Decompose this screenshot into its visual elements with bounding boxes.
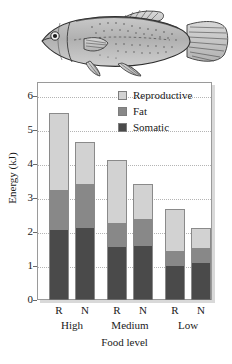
- chart-legend: ReproductiveFatSomatic: [118, 88, 192, 136]
- y-axis-tick: [33, 300, 37, 301]
- legend-swatch-somatic: [118, 123, 127, 132]
- bar-segment-fat: [165, 251, 185, 266]
- x-group-label-high: High: [42, 319, 102, 331]
- bar-segment-reproductive: [133, 184, 153, 219]
- bar-r-low[interactable]: [165, 209, 185, 300]
- bar-segment-reproductive: [75, 142, 95, 185]
- bar-n-medium[interactable]: [133, 184, 153, 300]
- energy-allocation-chart: 0123456 Energy (kJ) ReproductiveFatSomat…: [0, 80, 232, 364]
- legend-label: Fat: [133, 106, 147, 117]
- legend-label: Reproductive: [133, 90, 192, 101]
- figure-root: 0123456 Energy (kJ) ReproductiveFatSomat…: [0, 0, 232, 364]
- bar-segment-somatic: [133, 246, 153, 301]
- bar-segment-fat: [75, 184, 95, 228]
- legend-item-reproductive[interactable]: Reproductive: [118, 88, 192, 103]
- x-group-label-low: Low: [158, 319, 218, 331]
- legend-swatch-reproductive: [118, 91, 127, 100]
- x-axis-title: Food level: [37, 336, 212, 348]
- x-group-label-medium: Medium: [100, 319, 160, 331]
- x-tick-label: N: [74, 304, 96, 316]
- y-tick-label: 0: [3, 294, 33, 305]
- bar-segment-somatic: [49, 230, 69, 300]
- bar-segment-somatic: [191, 263, 211, 300]
- bar-segment-fat: [133, 219, 153, 246]
- bar-segment-fat: [107, 223, 127, 247]
- fish-illustration: [30, 3, 230, 79]
- bar-segment-reproductive: [107, 160, 127, 223]
- bar-segment-reproductive: [165, 209, 185, 250]
- legend-swatch-fat: [118, 107, 127, 116]
- y-tick-label: 1: [3, 260, 33, 271]
- x-tick-label: R: [106, 304, 128, 316]
- x-group-labels: HighMediumLow: [37, 319, 212, 333]
- bar-segment-somatic: [107, 247, 127, 300]
- bar-segment-reproductive: [49, 113, 69, 190]
- legend-item-fat[interactable]: Fat: [118, 104, 192, 119]
- bar-segment-fat: [191, 248, 211, 263]
- bar-segment-somatic: [165, 266, 185, 300]
- x-tick-label: R: [164, 304, 186, 316]
- legend-label: Somatic: [133, 122, 169, 133]
- bar-segment-fat: [49, 190, 69, 230]
- fish-pupil: [53, 34, 57, 38]
- x-tick-label: N: [132, 304, 154, 316]
- bar-segment-reproductive: [191, 228, 211, 247]
- x-tick-label: R: [48, 304, 70, 316]
- x-tick-labels: RNRNRN: [37, 304, 212, 318]
- bar-segment-somatic: [75, 228, 95, 300]
- bar-n-high[interactable]: [75, 142, 95, 300]
- bar-r-high[interactable]: [49, 113, 69, 300]
- legend-item-somatic[interactable]: Somatic: [118, 120, 192, 135]
- bar-r-medium[interactable]: [107, 160, 127, 300]
- x-tick-label: N: [190, 304, 212, 316]
- y-axis-title: Energy (kJ): [6, 118, 18, 238]
- bar-n-low[interactable]: [191, 228, 211, 300]
- y-tick-label: 6: [3, 90, 33, 101]
